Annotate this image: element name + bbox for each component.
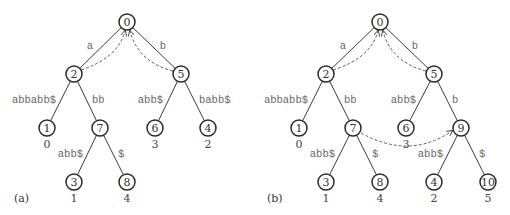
leaf-suffix-index: 5: [485, 192, 492, 205]
tree-node-5: 5: [426, 66, 442, 82]
edge-label: b: [160, 40, 166, 52]
node-id: 0: [124, 16, 131, 29]
tree-node-1: 10: [39, 120, 55, 151]
leaf-suffix-index: 4: [377, 192, 384, 205]
node-id: 7: [97, 122, 104, 135]
suffix-link-arrow: [130, 31, 173, 71]
tree-edge: [133, 28, 175, 69]
edge-label: b: [412, 40, 418, 52]
edge-label: $: [479, 148, 485, 160]
edge-label: abbabb$: [264, 94, 308, 106]
tree-node-8: 84: [119, 174, 135, 205]
panel-label: (a): [14, 192, 29, 205]
node-id: 2: [71, 68, 78, 81]
tree-node-3: 31: [66, 174, 82, 205]
node-id: 0: [377, 16, 384, 29]
node-id: 3: [71, 176, 78, 189]
node-id: 2: [323, 68, 330, 81]
node-id: 1: [44, 122, 51, 135]
panel-label: (b): [267, 192, 283, 205]
suffix-tree-figure: ababbabb$bbabb$babb$abb$$02510763423184(…: [0, 0, 510, 215]
leaf-suffix-index: 4: [124, 192, 131, 205]
tree-node-7: 7: [92, 120, 108, 136]
tree-edge: [332, 28, 374, 69]
figure-svg: ababbabb$bbabb$babb$abb$$02510763423184(…: [0, 0, 510, 215]
leaf-suffix-index: 2: [205, 138, 212, 151]
node-id: 5: [431, 68, 438, 81]
tree-node-8: 84: [372, 174, 388, 205]
node-id: 8: [124, 176, 131, 189]
edge-label: a: [340, 40, 346, 52]
edge-label: abb$: [138, 94, 163, 106]
edge-label: abb$: [310, 148, 335, 160]
tree-node-0: 0: [372, 14, 388, 30]
leaf-suffix-index: 1: [323, 192, 330, 205]
node-id: 6: [403, 122, 410, 135]
leaf-suffix-index: 1: [71, 192, 78, 205]
tree-node-6: 63: [147, 120, 163, 151]
tree-node-1: 10: [291, 120, 307, 151]
edge-label: abb$: [391, 94, 416, 106]
edge-label: abbabb$: [12, 94, 56, 106]
tree-node-2: 2: [318, 66, 334, 82]
node-id: 9: [458, 122, 465, 135]
leaf-suffix-index: 0: [44, 138, 51, 151]
tree-node-3: 31: [318, 174, 334, 205]
leaf-suffix-index: 2: [431, 192, 438, 205]
edge-label: a: [87, 40, 93, 52]
edge-label: b: [452, 94, 458, 106]
edge-label: abb$: [58, 148, 83, 160]
tree-node-10: 105: [480, 174, 496, 205]
leaf-suffix-index: 3: [152, 138, 159, 151]
edge-label: bb: [92, 94, 105, 106]
tree-node-4: 42: [426, 174, 442, 205]
tree-node-9: 9: [453, 120, 469, 136]
edge-label: abb$: [418, 148, 443, 160]
edge-label: $: [118, 148, 124, 160]
leaf-suffix-index: 0: [296, 138, 303, 151]
node-id: 10: [481, 176, 495, 189]
tree-node-4: 42: [200, 120, 216, 151]
node-id: 5: [178, 68, 185, 81]
node-id: 3: [323, 176, 330, 189]
tree-node-7: 7: [345, 120, 361, 136]
edge-label: babb$: [199, 94, 231, 106]
panel-b: ababbabb$bbabb$babb$$abb$$02510763931844…: [264, 14, 496, 205]
edge-label: bb: [344, 94, 357, 106]
suffix-link-arrow: [383, 31, 426, 71]
node-id: 7: [350, 122, 357, 135]
node-id: 4: [205, 122, 212, 135]
tree-edge: [386, 28, 428, 69]
leaf-suffix-index: 3: [403, 138, 410, 151]
node-id: 1: [296, 122, 303, 135]
node-id: 8: [377, 176, 384, 189]
edge-label: $: [372, 148, 378, 160]
tree-node-5: 5: [173, 66, 189, 82]
tree-node-2: 2: [66, 66, 82, 82]
panel-a: ababbabb$bbabb$babb$abb$$02510763423184(…: [12, 14, 231, 205]
node-id: 4: [431, 176, 438, 189]
node-id: 6: [152, 122, 159, 135]
tree-node-0: 0: [119, 14, 135, 30]
